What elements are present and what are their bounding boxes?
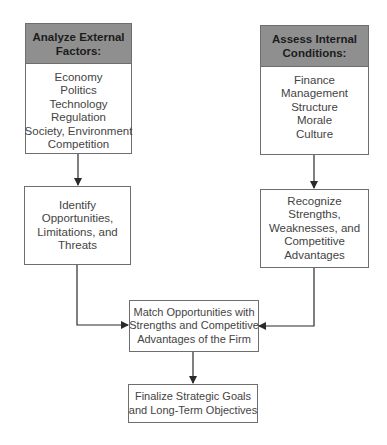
text-line: Recognize (287, 195, 341, 208)
identify-text: Identify Opportunities, Limitations, and… (25, 187, 130, 264)
list-item: Technology (49, 98, 107, 111)
header-line: Conditions: (283, 46, 347, 60)
text-line: Strengths and Competitive (129, 319, 259, 332)
list-item: Morale (297, 114, 332, 127)
arrow-identify-to-match (77, 265, 128, 325)
text-line: Limitations, and (37, 226, 118, 239)
text-line: Strengths, (288, 208, 340, 221)
header-line: Factors: (56, 44, 101, 58)
list-item: Finance (294, 74, 335, 87)
list-item: Society, Environment (25, 125, 133, 138)
text-line: Opportunities, (42, 212, 114, 225)
list-item: Regulation (51, 111, 106, 124)
internal-conditions-box: Assess Internal Conditions: Finance Mana… (260, 25, 369, 155)
external-factors-header: Analyze External Factors: (26, 24, 131, 64)
identify-opportunities-box: Identify Opportunities, Limitations, and… (24, 186, 131, 265)
finalize-text: Finalize Strategic Goals and Long-Term O… (129, 385, 257, 422)
list-item: Culture (296, 128, 333, 141)
external-factors-box: Analyze External Factors: Economy Politi… (25, 23, 132, 154)
internal-conditions-list: Finance Management Structure Morale Cult… (261, 67, 368, 154)
recognize-strengths-box: Recognize Strengths, Weaknesses, and Com… (260, 189, 369, 268)
list-item: Economy (55, 71, 103, 84)
recognize-text: Recognize Strengths, Weaknesses, and Com… (261, 190, 368, 267)
text-line: Advantages (284, 249, 345, 262)
header-line: Assess Internal (272, 32, 357, 46)
text-line: Weaknesses, and (269, 222, 360, 235)
match-text: Match Opportunities with Strengths and C… (130, 301, 258, 351)
internal-conditions-header: Assess Internal Conditions: (261, 26, 368, 67)
external-factors-list: Economy Politics Technology Regulation S… (26, 64, 131, 153)
list-item: Competition (48, 138, 109, 151)
list-item: Management (281, 87, 348, 100)
text-line: Threats (58, 239, 97, 252)
arrow-recognize-to-match (259, 268, 314, 326)
finalize-goals-box: Finalize Strategic Goals and Long-Term O… (128, 384, 258, 423)
list-item: Politics (60, 84, 96, 97)
text-line: Advantages of the Firm (137, 333, 251, 346)
text-line: Match Opportunities with (133, 306, 254, 319)
text-line: Finalize Strategic Goals (135, 390, 251, 403)
list-item: Structure (291, 101, 338, 114)
text-line: Competitive (284, 235, 345, 248)
text-line: and Long-Term Objectives (129, 404, 257, 417)
match-opportunities-box: Match Opportunities with Strengths and C… (129, 300, 259, 352)
text-line: Identify (59, 199, 96, 212)
header-line: Analyze External (32, 30, 124, 44)
